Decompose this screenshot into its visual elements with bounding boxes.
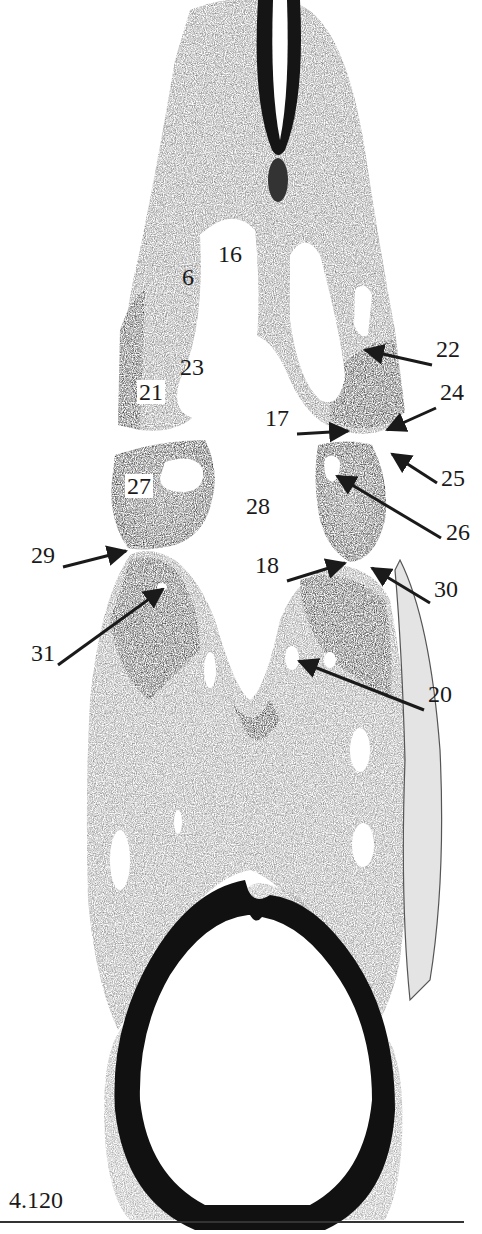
figure-number: 4.120 <box>9 1187 63 1214</box>
leader-arrow-25 <box>392 454 437 483</box>
structure-label-24: 24 <box>440 380 464 404</box>
structure-label-22: 22 <box>436 337 460 361</box>
leader-arrow-17 <box>297 431 348 434</box>
leader-arrow-24 <box>387 408 436 430</box>
bottom-rule <box>0 1221 464 1223</box>
structure-label-31: 31 <box>31 641 55 665</box>
leader-arrow-18 <box>287 563 345 581</box>
structure-label-17: 17 <box>265 406 289 430</box>
structure-label-16: 16 <box>218 242 242 266</box>
leader-arrow-29 <box>63 551 126 567</box>
histology-figure: 6162321222417252627282918303120 4.120 <box>0 0 482 1234</box>
structure-label-21: 21 <box>137 380 165 404</box>
leader-arrows <box>0 0 482 1234</box>
leader-arrow-20 <box>299 661 424 710</box>
leader-arrow-22 <box>365 350 432 365</box>
leader-arrow-30 <box>372 568 430 603</box>
structure-label-26: 26 <box>446 520 470 544</box>
structure-label-20: 20 <box>428 682 452 706</box>
leader-arrow-26 <box>337 476 441 538</box>
structure-label-28: 28 <box>246 494 270 518</box>
structure-label-18: 18 <box>255 553 279 577</box>
structure-label-6: 6 <box>182 265 194 289</box>
structure-label-23: 23 <box>180 355 204 379</box>
structure-label-30: 30 <box>434 577 458 601</box>
leader-arrow-31 <box>58 589 163 665</box>
structure-label-29: 29 <box>31 543 55 567</box>
structure-label-27: 27 <box>125 474 153 498</box>
structure-label-25: 25 <box>441 466 465 490</box>
